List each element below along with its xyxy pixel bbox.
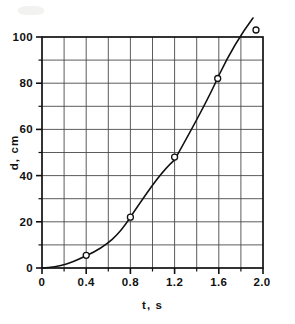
scan-artifact bbox=[18, 6, 44, 15]
x-tick-label-0.4: 0.4 bbox=[78, 276, 95, 288]
y-tick-label-40: 40 bbox=[19, 170, 33, 182]
fitted-curve bbox=[42, 18, 253, 268]
data-point bbox=[172, 154, 178, 160]
x-tick-label-1.2: 1.2 bbox=[166, 276, 183, 288]
y-tick-label-60: 60 bbox=[19, 123, 33, 135]
y-tick-label-100: 100 bbox=[13, 31, 33, 43]
x-tick-label-2.0: 2.0 bbox=[253, 276, 270, 288]
y-axis-title: d, cm bbox=[8, 135, 20, 171]
figure-container: 100 80 60 40 20 0 0 0.4 0.8 1.2 1.6 2.0 … bbox=[0, 0, 295, 324]
data-point bbox=[215, 76, 221, 82]
y-tick-label-0: 0 bbox=[26, 262, 33, 274]
x-tick-label-0.8: 0.8 bbox=[122, 276, 139, 288]
x-tick-label-1.6: 1.6 bbox=[210, 276, 227, 288]
data-point bbox=[253, 27, 259, 33]
y-tick-label-20: 20 bbox=[19, 216, 33, 228]
distance-vs-time-chart: 100 80 60 40 20 0 0 0.4 0.8 1.2 1.6 2.0 … bbox=[0, 0, 295, 324]
y-tick-label-80: 80 bbox=[19, 77, 33, 89]
data-point bbox=[127, 214, 133, 220]
data-points bbox=[83, 27, 259, 258]
data-point bbox=[83, 252, 89, 258]
x-axis-title: t, s bbox=[142, 299, 163, 311]
x-tick-label-0: 0 bbox=[39, 276, 46, 288]
